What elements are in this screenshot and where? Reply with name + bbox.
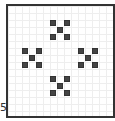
filled-cell-bottom[interactable] — [64, 90, 70, 96]
filled-cell-top[interactable] — [64, 34, 70, 40]
filled-cell-bottom[interactable] — [57, 83, 63, 89]
filled-cell-right[interactable] — [92, 48, 98, 54]
filled-cell-left[interactable] — [36, 62, 42, 68]
filled-cell-top[interactable] — [64, 20, 70, 26]
game-board[interactable] — [6, 4, 115, 118]
filled-cell-bottom[interactable] — [50, 76, 56, 82]
filled-cell-right[interactable] — [92, 62, 98, 68]
filled-cell-top[interactable] — [50, 20, 56, 26]
filled-cell-right[interactable] — [78, 62, 84, 68]
filled-cell-left[interactable] — [29, 55, 35, 61]
filled-cell-left[interactable] — [22, 62, 28, 68]
filled-cell-bottom[interactable] — [50, 90, 56, 96]
filled-cell-bottom[interactable] — [64, 76, 70, 82]
filled-cell-right[interactable] — [78, 48, 84, 54]
filled-cell-right[interactable] — [85, 55, 91, 61]
filled-cell-top[interactable] — [50, 34, 56, 40]
filled-cell-top[interactable] — [57, 27, 63, 33]
filled-cell-left[interactable] — [36, 48, 42, 54]
filled-cell-left[interactable] — [22, 48, 28, 54]
